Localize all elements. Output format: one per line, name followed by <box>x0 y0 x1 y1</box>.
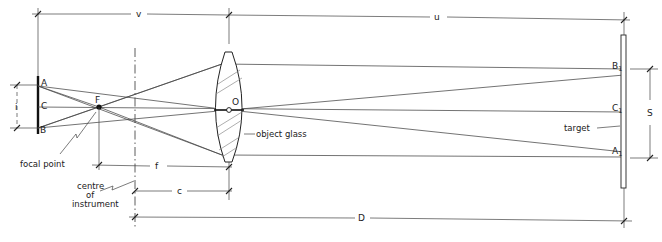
optical-diagram: v u i S f c D A C B F O B1 C1 A1 focal p… <box>0 0 662 242</box>
dim-label-d: D <box>358 213 365 223</box>
point-label-c: C <box>41 101 47 111</box>
point-label-a: A <box>41 78 48 88</box>
dimension-lines <box>10 8 658 228</box>
point-label-o: O <box>232 97 239 107</box>
dim-label-i: i <box>15 102 18 112</box>
focal-point-f <box>96 104 101 170</box>
labels: v u i S f c D A C B F O B1 C1 A1 focal p… <box>15 9 653 223</box>
dim-label-s: S <box>647 108 653 118</box>
dim-label-c: c <box>177 186 182 196</box>
optical-centre-o <box>227 108 232 113</box>
annotation-centre-line3: instrument <box>72 199 119 209</box>
dim-label-u: u <box>434 12 440 22</box>
annotation-focal-point: focal point <box>20 159 65 169</box>
dim-label-f: f <box>155 161 159 171</box>
annotation-object-glass: object glass <box>256 129 307 139</box>
point-label-f: F <box>95 95 100 105</box>
object-glass-lens <box>214 52 244 162</box>
point-label-b: B <box>40 125 46 135</box>
annotation-target: target <box>564 123 591 133</box>
ray-lines <box>38 64 624 157</box>
dim-label-v: v <box>136 9 142 19</box>
leader-lines <box>60 112 620 191</box>
